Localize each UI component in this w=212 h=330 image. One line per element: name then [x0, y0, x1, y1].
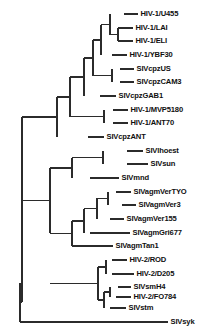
taxon-label-hiv1-mvp5180: HIV-1/MVP5180 [131, 105, 184, 114]
taxon-label-sivagmtan1: SIVagmTan1 [116, 241, 160, 250]
taxon-label-hiv1-ybf30: HIV-1/YBF30 [130, 50, 173, 59]
taxon-labels-group: HIV-1/U455HIV-1/LAIHIV-1/ELIHIV-1/YBF30S… [107, 9, 196, 326]
taxon-label-sivcpzant: SIVcpzANT [107, 132, 147, 141]
phylogenetic-tree-figure: HIV-1/U455HIV-1/LAIHIV-1/ELIHIV-1/YBF30S… [0, 0, 212, 330]
taxon-label-hiv2-fo784: HIV-2/FO784 [134, 292, 178, 301]
taxon-label-hiv2-d205: HIV-2/D205 [137, 269, 176, 278]
taxon-label-hiv1-u455: HIV-1/U455 [141, 9, 180, 18]
taxon-label-sivagmver3: SIVagmVer3 [139, 200, 181, 209]
taxon-label-sivagmver155: SIVagmVer155 [127, 214, 178, 223]
taxon-label-hiv1-lai: HIV-1/LAI [136, 23, 168, 32]
taxon-label-hiv1-eli: HIV-1/ELI [136, 36, 168, 45]
taxon-label-hiv2-rod: HIV-2/ROD [130, 255, 167, 264]
taxon-label-sivsmh4: SIVsmH4 [134, 282, 167, 291]
taxon-label-hiv1-ant70: HIV-1/ANT70 [131, 118, 175, 127]
taxon-label-sivsyk: SIVsyk [171, 317, 196, 326]
taxon-label-sivagmvertyo: SIVagmVerTYO [134, 187, 187, 196]
taxon-label-sivcpzus: SIVcpzUS [137, 64, 171, 73]
taxon-label-sivagmgri677: SIVagmGri677 [133, 228, 182, 237]
taxon-label-sivsun: SIVsun [151, 159, 176, 168]
taxon-label-sivcpzgab1: SIVcpzGAB1 [119, 91, 164, 100]
taxon-label-sivcpzcam3: SIVcpzCAM3 [137, 77, 182, 86]
taxon-label-sivstm: SIVstm [129, 303, 154, 312]
taxon-label-sivlhoest: SIVlhoest [146, 146, 180, 155]
tree-canvas: HIV-1/U455HIV-1/LAIHIV-1/ELIHIV-1/YBF30S… [0, 0, 212, 330]
taxon-label-sivmnd: SIVmnd [122, 173, 150, 182]
